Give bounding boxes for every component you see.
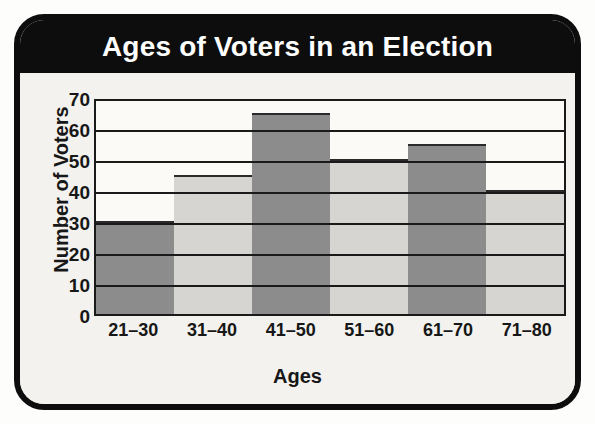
bar-series [96, 101, 564, 314]
bar-fill [252, 113, 330, 315]
x-axis-tick-61–70: 61–70 [409, 320, 488, 341]
bar-fill [96, 221, 174, 314]
chart-title: Ages of Voters in an Election [102, 31, 493, 63]
y-axis-tick-30: 30 [69, 214, 90, 233]
chart-body: Number of Voters 706050403020100 21–3031… [20, 73, 575, 410]
x-axis-title: Ages [20, 365, 575, 388]
y-axis-tick-20: 20 [69, 245, 90, 264]
y-axis-tick-50: 50 [69, 152, 90, 171]
y-axis-tick-70: 70 [69, 90, 90, 109]
x-axis-tick-21–30: 21–30 [94, 320, 173, 341]
bar-fill [174, 175, 252, 315]
x-axis-tick-71–80: 71–80 [487, 320, 566, 341]
x-axis-tick-31–40: 31–40 [173, 320, 252, 341]
x-axis-tick-labels: 21–3031–4041–5051–6061–7071–80 [94, 320, 566, 341]
x-axis-tick-51–60: 51–60 [330, 320, 409, 341]
plot-area [94, 99, 566, 316]
chart-card: Ages of Voters in an Election Number of … [14, 14, 581, 410]
bar-fill [486, 190, 564, 314]
y-axis-tick-60: 60 [69, 121, 90, 140]
y-axis-tick-labels: 706050403020100 [48, 99, 90, 316]
x-axis-tick-41–50: 41–50 [251, 320, 330, 341]
y-axis-tick-0: 0 [79, 307, 90, 326]
chart-title-banner: Ages of Voters in an Election [20, 20, 575, 73]
bar-fill [408, 144, 486, 315]
bar-fill [330, 159, 408, 314]
y-axis-tick-10: 10 [69, 276, 90, 295]
chart-screenshot: Ages of Voters in an Election Number of … [0, 0, 595, 424]
y-axis-tick-40: 40 [69, 183, 90, 202]
